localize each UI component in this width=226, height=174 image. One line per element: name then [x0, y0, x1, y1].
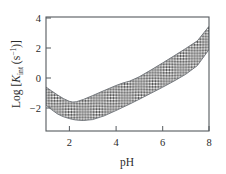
- y-axis-title-open-paren: (s: [10, 55, 23, 67]
- y-tick-label-minus2: −2: [30, 103, 41, 114]
- x-tick-label-4: 4: [113, 137, 119, 148]
- y-axis-title-close: )]: [10, 40, 23, 48]
- chart-canvas: 4 2 0 −2 2 4 6 8 pH Log [Kint (s−1)]: [0, 0, 226, 174]
- y-axis-title-superscript: −1: [9, 48, 18, 56]
- y-axis-title-prefix: Log [: [10, 83, 23, 108]
- svg-text:Log [Kint (s−1)]: Log [Kint (s−1)]: [9, 40, 24, 108]
- chart-figure: 4 2 0 −2 2 4 6 8 pH Log [Kint (s−1)]: [0, 0, 226, 174]
- y-tick-label-4: 4: [36, 13, 42, 24]
- y-tick-label-0: 0: [36, 73, 41, 84]
- x-tick-label-2: 2: [67, 137, 72, 148]
- x-axis-title: pH: [120, 156, 134, 169]
- y-tick-label-2: 2: [36, 43, 41, 54]
- x-tick-label-6: 6: [160, 137, 165, 148]
- x-tick-label-8: 8: [206, 137, 211, 148]
- y-axis-title: Log [Kint (s−1)]: [9, 40, 24, 108]
